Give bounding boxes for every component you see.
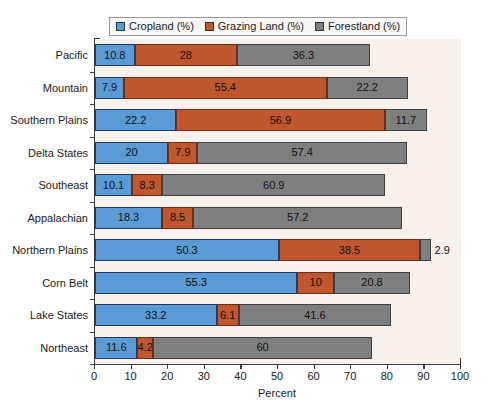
category-label: Lake States (30, 310, 88, 321)
x-axis-tick-label: 70 (344, 371, 356, 382)
y-axis-tick (90, 137, 95, 138)
bar-value-label: 2.9 (435, 245, 450, 256)
bar-value-label: 22.2 (357, 82, 378, 93)
bar-value-label: 56.9 (270, 115, 291, 126)
bar-row: Corn Belt55.31020.8 (95, 272, 461, 294)
bar-segment[interactable]: 10 (297, 272, 334, 294)
bar-segment[interactable]: 22.2 (327, 77, 408, 99)
bar-segment[interactable]: 10.1 (95, 174, 132, 196)
bar-segment[interactable]: 10.8 (95, 44, 135, 66)
x-axis-tick-label: 20 (161, 371, 173, 382)
x-axis-tick-label: 90 (417, 371, 429, 382)
bar-row: Northeast11.64.260 (95, 337, 461, 359)
category-label: Pacific (56, 50, 88, 61)
bar-value-label: 60 (256, 342, 268, 353)
bar-value-label: 55.4 (215, 82, 236, 93)
bar-segment[interactable]: 4.2 (137, 337, 152, 359)
x-axis-tick-label: 10 (124, 371, 136, 382)
bar-row: Lake States33.26.141.6 (95, 304, 461, 326)
bar-segment[interactable]: 50.3 (95, 239, 279, 261)
x-axis-tick-label: 60 (307, 371, 319, 382)
category-label: Corn Belt (42, 277, 88, 288)
bar-segment[interactable]: 11.6 (95, 337, 137, 359)
bar-segment[interactable]: 60.9 (162, 174, 385, 196)
bar-segment[interactable]: 41.6 (239, 304, 391, 326)
category-label: Delta States (28, 147, 88, 158)
bar-value-label: 36.3 (293, 50, 314, 61)
bar-value-label: 10.8 (104, 50, 125, 61)
bar-segment[interactable]: 18.3 (95, 207, 162, 229)
legend-label: Cropland (%) (129, 21, 194, 32)
bar-value-label: 38.5 (339, 245, 360, 256)
bar-value-label: 8.3 (139, 180, 154, 191)
bar-segment[interactable]: 20.8 (334, 272, 410, 294)
bar-segment[interactable]: 2.9 (420, 239, 431, 261)
x-axis-tick-label: 50 (271, 371, 283, 382)
bar-value-label: 60.9 (263, 180, 284, 191)
legend-entry[interactable]: Forestland (%) (315, 21, 400, 32)
bar-value-label: 4.2 (137, 342, 152, 353)
bar-segment[interactable]: 8.5 (162, 207, 193, 229)
y-axis-tick (90, 104, 95, 105)
bar-segment[interactable]: 55.3 (95, 272, 297, 294)
x-axis-tick (204, 364, 205, 369)
bar-segment[interactable]: 33.2 (95, 304, 217, 326)
bar-value-label: 55.3 (185, 277, 206, 288)
bar-segment[interactable]: 7.9 (95, 77, 124, 99)
bar-value-label: 11.6 (106, 342, 127, 353)
category-label: Southern Plains (10, 115, 88, 126)
x-axis-tick-label: 100 (451, 371, 469, 382)
bar-row: Southeast10.18.360.9 (95, 174, 461, 196)
x-axis-tick (277, 364, 278, 369)
bar-row: Pacific10.82836.3 (95, 44, 461, 66)
chart-legend: Cropland (%)Grazing Land (%)Forestland (… (109, 17, 407, 36)
bar-segment[interactable]: 60 (153, 337, 373, 359)
bar-segment[interactable]: 28 (135, 44, 237, 66)
plot-area: Pacific10.82836.3Mountain7.955.422.2Sout… (94, 39, 461, 365)
bar-segment[interactable]: 36.3 (237, 44, 370, 66)
category-label: Northeast (40, 342, 88, 353)
bar-value-label: 57.2 (287, 212, 308, 223)
bar-segment[interactable]: 6.1 (217, 304, 239, 326)
y-axis-tick (90, 202, 95, 203)
bar-value-label: 10.1 (103, 180, 124, 191)
x-axis-tick (460, 364, 461, 369)
legend-entry[interactable]: Grazing Land (%) (205, 21, 304, 32)
legend-entry[interactable]: Cropland (%) (116, 21, 194, 32)
y-axis-tick (90, 332, 95, 333)
category-label: Northern Plains (12, 245, 88, 256)
bar-value-label: 28 (180, 50, 192, 61)
bar-rows: Pacific10.82836.3Mountain7.955.422.2Sout… (95, 39, 461, 364)
bar-segment[interactable]: 57.4 (197, 142, 407, 164)
bar-segment[interactable]: 22.2 (95, 109, 176, 131)
bar-segment[interactable]: 7.9 (168, 142, 197, 164)
category-label: Southeast (38, 180, 88, 191)
bar-segment[interactable]: 8.3 (132, 174, 162, 196)
bar-segment[interactable]: 55.4 (124, 77, 327, 99)
bar-segment[interactable]: 11.7 (385, 109, 428, 131)
bar-segment[interactable]: 20 (95, 142, 168, 164)
legend-label: Grazing Land (%) (218, 21, 304, 32)
x-axis-tick (131, 364, 132, 369)
bar-value-label: 18.3 (118, 212, 139, 223)
category-label: Mountain (43, 82, 88, 93)
y-axis-tick (90, 72, 95, 73)
x-axis-tick-label: 0 (91, 371, 97, 382)
bar-row: Delta States207.957.4 (95, 142, 461, 164)
x-axis-tick (350, 364, 351, 369)
bar-value-label: 7.9 (102, 82, 117, 93)
bar-value-label: 22.2 (125, 115, 146, 126)
x-axis-tick-label: 40 (234, 371, 246, 382)
x-axis: Percent 0102030405060708090100 (94, 364, 460, 404)
bar-value-label: 8.5 (170, 212, 185, 223)
bar-segment[interactable]: 57.2 (193, 207, 402, 229)
bar-segment[interactable]: 56.9 (176, 109, 384, 131)
bar-segment[interactable]: 38.5 (279, 239, 420, 261)
x-axis-tick (423, 364, 424, 369)
x-axis-tick (314, 364, 315, 369)
y-axis-tick (90, 234, 95, 235)
y-axis-tick (90, 299, 95, 300)
bar-value-label: 33.2 (145, 310, 166, 321)
x-axis-tick (240, 364, 241, 369)
bar-value-label: 41.6 (304, 310, 325, 321)
